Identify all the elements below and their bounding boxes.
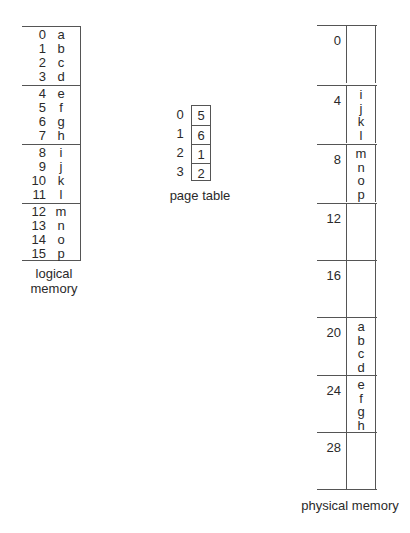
frame-byte: p [346, 188, 376, 202]
logical-row: 5f [22, 101, 80, 115]
frame-byte: b [346, 334, 376, 348]
frame-byte: h [346, 419, 376, 433]
logical-row: 10k [22, 174, 80, 188]
physical-frame: 0 [317, 25, 377, 83]
logical-row: 12m [22, 205, 80, 219]
frame-byte: d [346, 361, 376, 375]
frame-byte: f [346, 392, 376, 406]
page-table-caption: page table [160, 188, 240, 203]
frame-address: 12 [327, 211, 341, 226]
logical-row: 4e [22, 87, 80, 101]
frame-byte: j [346, 102, 376, 116]
frame-cell [346, 26, 376, 83]
logical-row: 8i [22, 146, 80, 160]
page-table-entry: 1 [192, 144, 210, 163]
frame-byte: a [346, 320, 376, 334]
physical-frame: 12 [317, 203, 377, 261]
frame-contents: m n o p [346, 147, 376, 201]
logical-row: 7h [22, 129, 80, 143]
frame-address: 24 [327, 383, 341, 398]
logical-page-0: 0a 1b 2c 3d [22, 27, 80, 85]
frame-byte: c [346, 347, 376, 361]
physical-frame: 8 m n o p [317, 144, 377, 202]
logical-row: 9j [22, 160, 80, 174]
logical-memory-table: 0a 1b 2c 3d 4e 5f 6g 7h 8i 9j 10k 11l 12… [22, 26, 81, 261]
physical-frame: 16 [317, 260, 377, 318]
frame-byte: l [346, 129, 376, 143]
caption-line: memory [14, 281, 94, 296]
frame-byte: i [346, 88, 376, 102]
frame-byte: e [346, 378, 376, 392]
physical-frame: 4 i j k l [317, 85, 377, 143]
frame-address: 16 [327, 268, 341, 283]
logical-memory-caption: logical memory [14, 266, 94, 296]
page-table-entry: 5 [192, 106, 210, 125]
frame-byte: n [346, 161, 376, 175]
caption-line: logical [14, 266, 94, 281]
page-index: 0 [174, 105, 186, 124]
logical-row: 3d [22, 70, 80, 84]
frame-address: 4 [334, 93, 341, 108]
logical-row: 14o [22, 233, 80, 247]
logical-row: 13n [22, 219, 80, 233]
frame-address: 28 [327, 440, 341, 455]
logical-row: 1b [22, 42, 80, 56]
frame-address: 20 [327, 325, 341, 340]
physical-frame: 20 a b c d [317, 317, 377, 375]
logical-row: 11l [22, 188, 80, 202]
page-table-entry: 2 [192, 163, 210, 182]
physical-frame: 28 [317, 432, 377, 490]
logical-page-2: 8i 9j 10k 11l [22, 144, 80, 202]
physical-memory-caption: physical memory [295, 498, 405, 513]
physical-memory-table: 0 4 i j k l 8 m n o p 12 16 20 a b [317, 25, 377, 490]
page-table-entry: 6 [192, 125, 210, 144]
logical-row: 15p [22, 247, 80, 261]
frame-cell [346, 261, 376, 318]
frame-address: 8 [334, 152, 341, 167]
frame-byte: o [346, 174, 376, 188]
logical-row: 0a [22, 28, 80, 42]
page-index: 1 [174, 124, 186, 143]
logical-row: 2c [22, 56, 80, 70]
physical-frame: 24 e f g h [317, 375, 377, 433]
page-index: 3 [174, 162, 186, 181]
frame-byte: g [346, 405, 376, 419]
frame-contents: a b c d [346, 320, 376, 374]
page-table: 5 6 1 2 [191, 105, 211, 181]
frame-cell [346, 204, 376, 261]
frame-byte: k [346, 115, 376, 129]
frame-contents: e f g h [346, 378, 376, 432]
frame-cell [346, 433, 376, 489]
frame-contents: i j k l [346, 88, 376, 142]
logical-row: 6g [22, 115, 80, 129]
logical-page-3: 12m 13n 14o 15p [22, 203, 80, 261]
frame-address: 0 [334, 33, 341, 48]
logical-page-1: 4e 5f 6g 7h [22, 85, 80, 143]
frame-byte: m [346, 147, 376, 161]
page-index: 2 [174, 143, 186, 162]
